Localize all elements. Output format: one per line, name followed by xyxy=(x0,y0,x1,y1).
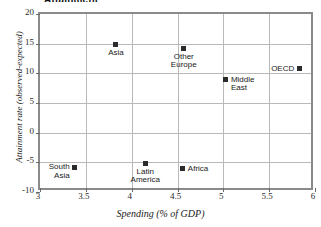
data-point-label: Asia xyxy=(108,49,124,58)
y-gridline xyxy=(40,103,311,104)
y-tick-mark xyxy=(36,162,40,163)
data-point-marker[interactable] xyxy=(113,42,118,47)
data-point-label: Latin America xyxy=(131,168,160,185)
chart-container: Attainment Spending (% of GDP) Attainmen… xyxy=(0,0,321,227)
x-tick-label: 3.5 xyxy=(69,192,99,201)
data-point-marker[interactable] xyxy=(180,166,185,171)
x-tick-label: 5 xyxy=(206,192,236,201)
x-axis-title: Spending (% of GDP) xyxy=(0,208,321,219)
chart-title: Attainment xyxy=(44,0,164,2)
x-tick-label: 6 xyxy=(298,192,321,201)
y-tick-mark xyxy=(36,73,40,74)
x-tick-label: 4 xyxy=(115,192,145,201)
data-point-marker[interactable] xyxy=(223,77,228,82)
data-point-label: Africa xyxy=(188,165,208,174)
y-tick-mark xyxy=(36,14,40,15)
y-tick-mark xyxy=(36,103,40,104)
y-gridline xyxy=(40,133,311,134)
data-point-label: Middle East xyxy=(231,76,255,93)
y-gridline xyxy=(40,162,311,163)
y-tick-mark xyxy=(36,44,40,45)
data-point-label: Other Europe xyxy=(171,53,197,70)
x-tick-label: 4.5 xyxy=(161,192,191,201)
plot-area xyxy=(38,12,313,190)
data-point-marker[interactable] xyxy=(297,66,302,71)
y-tick-label: 0 xyxy=(8,127,34,136)
y-tick-label: -10 xyxy=(8,186,34,195)
data-point-label: South Asia xyxy=(49,163,70,180)
data-point-label: OECD xyxy=(271,65,294,74)
data-point-marker[interactable] xyxy=(143,161,148,166)
x-tick-label: 5.5 xyxy=(252,192,282,201)
y-tick-mark xyxy=(36,133,40,134)
y-tick-label: -5 xyxy=(8,156,34,165)
y-tick-label: 20 xyxy=(8,8,34,17)
y-gridline xyxy=(40,44,311,45)
data-point-marker[interactable] xyxy=(72,165,77,170)
y-tick-label: 15 xyxy=(8,38,34,47)
y-tick-label: 5 xyxy=(8,97,34,106)
data-point-marker[interactable] xyxy=(181,46,186,51)
y-gridline xyxy=(40,73,311,74)
y-tick-label: 10 xyxy=(8,67,34,76)
